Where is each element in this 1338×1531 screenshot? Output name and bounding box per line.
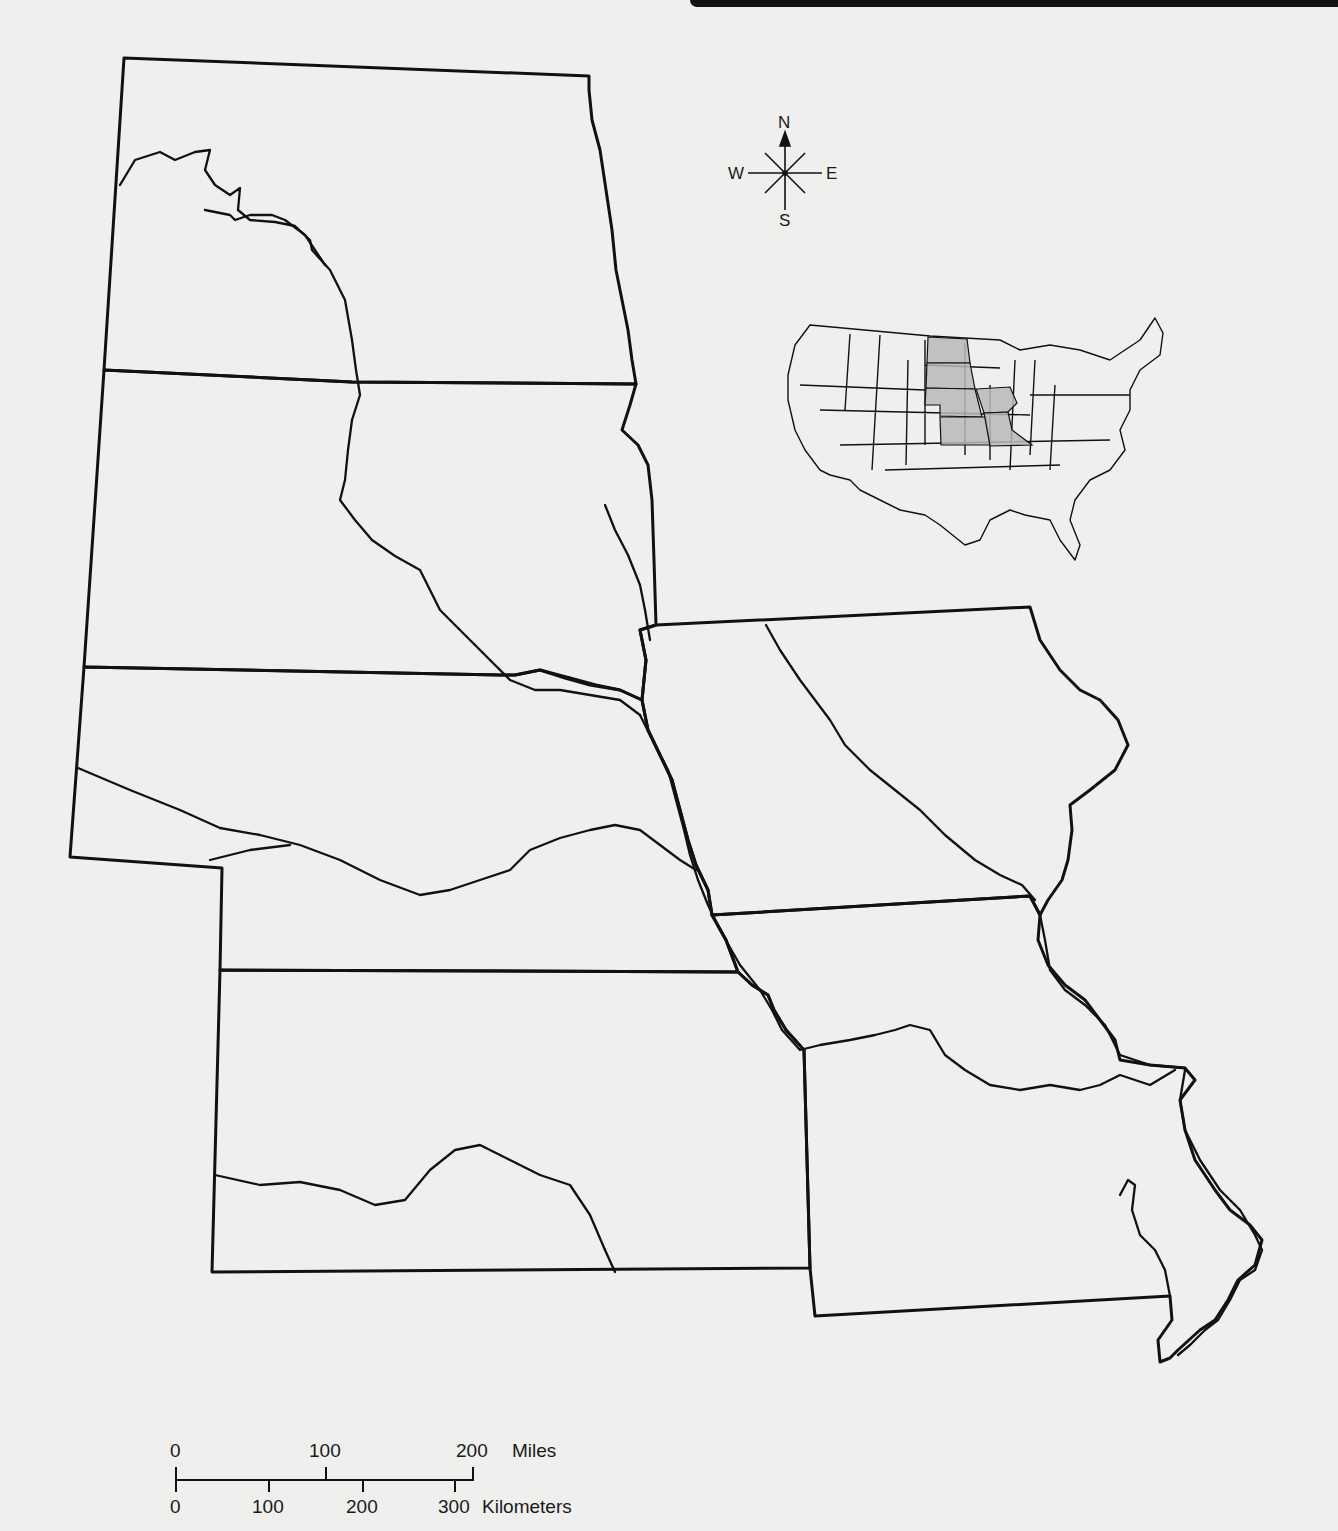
compass-east-label: E bbox=[826, 164, 837, 184]
scale-miles-100: 100 bbox=[309, 1440, 341, 1462]
state-south-dakota bbox=[84, 370, 656, 700]
regional-map bbox=[0, 0, 1338, 1531]
state-iowa bbox=[640, 607, 1128, 915]
river-missouri-upper bbox=[120, 150, 640, 715]
highlight-south-dakota bbox=[926, 363, 975, 389]
scale-km-100: 100 bbox=[252, 1496, 284, 1518]
highlight-kansas bbox=[940, 417, 990, 445]
river-des-moines bbox=[766, 625, 1035, 900]
highlight-north-dakota bbox=[927, 337, 970, 363]
river-st-francis bbox=[1120, 1180, 1170, 1296]
scale-km-200: 200 bbox=[346, 1496, 378, 1518]
river-missouri-upper-bank bbox=[205, 210, 325, 265]
scale-bar bbox=[176, 1467, 474, 1492]
river-platte bbox=[78, 768, 696, 895]
compass-north-label: N bbox=[778, 113, 790, 133]
locator-highlight bbox=[925, 337, 1032, 446]
scale-km-unit: Kilometers bbox=[482, 1496, 572, 1518]
state-kansas bbox=[212, 970, 810, 1272]
highlight-missouri bbox=[984, 412, 1032, 446]
scale-miles-0: 0 bbox=[170, 1440, 181, 1462]
state-north-dakota bbox=[104, 58, 636, 384]
river-mississippi bbox=[1040, 915, 1185, 1068]
river-james bbox=[605, 505, 650, 640]
river-platte-south bbox=[210, 845, 290, 860]
river-arkansas bbox=[215, 1145, 615, 1272]
compass-south-label: S bbox=[779, 211, 790, 231]
compass-rose bbox=[748, 132, 822, 210]
highlight-iowa bbox=[976, 387, 1017, 413]
scale-miles-200: 200 bbox=[456, 1440, 488, 1462]
scale-miles-unit: Miles bbox=[512, 1440, 556, 1462]
state-missouri bbox=[712, 896, 1262, 1362]
compass-west-label: W bbox=[728, 164, 744, 184]
scale-km-0: 0 bbox=[170, 1496, 181, 1518]
scale-km-300: 300 bbox=[438, 1496, 470, 1518]
